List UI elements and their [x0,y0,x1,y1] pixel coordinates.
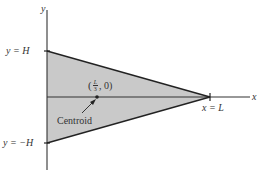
fraction-denominator: 3 [94,86,97,92]
y-axis-label: y [41,4,45,14]
diagram-canvas [0,0,265,182]
label-y-H: y = H [6,46,29,56]
centroid-point [95,95,99,99]
fraction-L-over-3: L 3 [93,79,98,92]
centroid-coordinate: ( L 3 , 0) [88,79,112,92]
centroid-label: Centroid [57,116,92,126]
label-y-negH: y = −H [3,138,33,148]
x-axis-label: x [252,92,256,102]
label-x-L: x = L [202,103,224,113]
fraction-numerator: L [93,79,98,86]
coord-rest: , 0) [99,81,112,91]
paren-open: ( [88,80,92,91]
